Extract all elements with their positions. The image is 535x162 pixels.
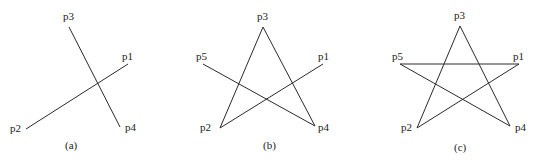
point-label-p1: p1	[122, 50, 133, 62]
point-label-p2: p2	[200, 121, 211, 133]
point-label-p3: p3	[63, 10, 75, 22]
edge-p2-p1	[417, 64, 519, 128]
point-label-p4: p4	[318, 121, 330, 133]
point-label-p5: p5	[196, 50, 208, 62]
edge-p2-p1	[220, 64, 323, 128]
point-label-p3: p3	[454, 9, 466, 21]
point-label-p4: p4	[515, 121, 527, 133]
edge-p3-p4	[460, 26, 510, 126]
panel-b: p3 p5 p1 p2 p4 (b)	[196, 10, 330, 152]
point-label-p4: p4	[125, 121, 137, 133]
edge-p5-p4	[400, 64, 510, 126]
panel-c: p3 p5 p1 p2 p4 (c)	[392, 9, 527, 154]
point-label-p1: p1	[513, 50, 524, 62]
edge-p3-p4	[69, 27, 120, 127]
point-label-p2: p2	[10, 122, 21, 134]
panel-caption: (a)	[65, 139, 78, 152]
point-label-p5: p5	[392, 50, 404, 62]
polygon-construction-diagram: p3 p1 p2 p4 (a) p3 p5 p1 p2 p4 (b) p3 p5…	[0, 0, 535, 162]
point-label-p2: p2	[401, 121, 412, 133]
panel-caption: (b)	[263, 139, 276, 152]
edge-p2-p1	[26, 64, 128, 129]
point-label-p1: p1	[318, 50, 329, 62]
panel-a: p3 p1 p2 p4 (a)	[10, 10, 137, 152]
panel-caption: (c)	[454, 141, 467, 154]
point-label-p3: p3	[257, 10, 269, 22]
